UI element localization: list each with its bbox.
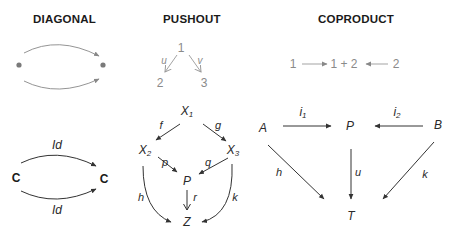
- label-r: r: [193, 191, 197, 203]
- node-3: 3: [201, 77, 208, 89]
- label-k: k: [232, 191, 238, 203]
- node-c-target: C: [100, 173, 109, 185]
- coproduct-title: COPRODUCT: [318, 13, 394, 25]
- arrow-q: [199, 158, 228, 174]
- node-x2: X2: [139, 144, 151, 160]
- node-t: T: [347, 210, 354, 222]
- label-i1: i1: [299, 106, 306, 122]
- label-u: u: [355, 166, 361, 178]
- pushout-top-diagram: [165, 55, 201, 72]
- diagonal-bottom-diagram: [21, 155, 96, 199]
- node-x1: X1: [181, 105, 193, 121]
- arrow-k: [202, 164, 232, 222]
- diagonal-top-diagram: [16, 45, 105, 89]
- node-z: Z: [183, 216, 190, 228]
- label-h: h: [276, 166, 282, 178]
- label-q: q: [205, 156, 211, 168]
- label-id-bottom: Id: [52, 204, 62, 216]
- label-i2: i2: [393, 106, 400, 122]
- node-x3: X3: [227, 144, 239, 160]
- node-2: 2: [393, 58, 400, 70]
- node-2: 2: [157, 77, 164, 89]
- node-a: A: [259, 122, 267, 134]
- arrow-top: [24, 45, 99, 56]
- node-1: 1: [178, 42, 185, 54]
- label-id-top: Id: [52, 139, 62, 151]
- arrow-id-top: [21, 155, 96, 166]
- pushout-bottom-diagram: [143, 124, 232, 222]
- node-p: P: [183, 175, 191, 187]
- arrows-layer: [0, 0, 449, 239]
- arrow-id-bottom: [21, 189, 96, 199]
- label-p: p: [162, 156, 168, 168]
- dot-right: [100, 62, 105, 67]
- node-1-plus-2: 1 + 2: [330, 58, 357, 70]
- diagonal-title: DIAGONAL: [33, 13, 96, 25]
- node-1: 1: [290, 58, 297, 70]
- label-v: v: [198, 55, 203, 67]
- pushout-title: PUSHOUT: [163, 13, 221, 25]
- node-b: B: [434, 119, 442, 131]
- arrow-bottom: [24, 79, 99, 89]
- node-c-source: C: [12, 172, 21, 184]
- dot-left: [16, 62, 21, 67]
- label-u: u: [161, 55, 167, 67]
- label-g: g: [215, 119, 221, 131]
- node-p: P: [346, 120, 354, 132]
- label-k: k: [422, 168, 428, 180]
- label-f: f: [159, 119, 162, 131]
- coproduct-bottom-diagram: [268, 126, 434, 199]
- label-h: h: [138, 191, 144, 203]
- arrow-h: [143, 166, 171, 222]
